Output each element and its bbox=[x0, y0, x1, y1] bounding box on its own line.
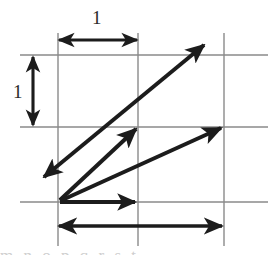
long-diagonal-double-arrow bbox=[44, 45, 204, 177]
top-unit-label: 1 bbox=[92, 8, 102, 27]
grid-lines bbox=[20, 33, 268, 246]
vector-grid-figure: 1 1 m n o p q r s t bbox=[0, 0, 274, 255]
vector-to-middle-intersection bbox=[60, 129, 136, 200]
vectors bbox=[44, 45, 221, 202]
vector-diagram-canvas bbox=[0, 0, 274, 255]
vector-to-right-intersection bbox=[60, 128, 221, 201]
left-unit-label: 1 bbox=[13, 82, 23, 101]
page-cutoff-text: m n o p q r s t bbox=[0, 246, 274, 255]
